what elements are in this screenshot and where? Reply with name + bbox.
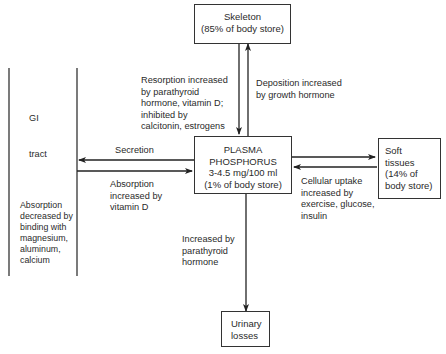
soft-tissues-title-1: Soft: [385, 145, 440, 157]
plasma-phosphorus-node: PLASMA PHOSPHORUS 3-4.5 mg/100 ml (1% of…: [194, 136, 292, 194]
soft-tissues-node: Soft tissues (14% of body store): [378, 138, 441, 199]
skeleton-percent: (85% of body store): [195, 23, 290, 35]
skeleton-node: Skeleton (85% of body store): [194, 4, 291, 44]
secretion-label: Secretion: [115, 145, 154, 157]
urinary-title-1: Urinary: [231, 318, 269, 330]
soft-tissues-title-2: tissues: [385, 157, 440, 169]
gi-tract-label: GI tract: [29, 88, 47, 172]
plasma-title-2: PHOSPHORUS: [195, 156, 291, 168]
gi-tract-label-1: GI: [29, 112, 47, 124]
urinary-increased-label: Increased by parathyroid hormone: [182, 234, 235, 269]
soft-tissues-percent-2: body store): [385, 180, 440, 192]
deposition-label: Deposition increased by growth hormone: [256, 78, 342, 101]
skeleton-title: Skeleton: [195, 11, 290, 23]
urinary-losses-node: Urinary losses: [221, 311, 270, 347]
plasma-title-1: PLASMA: [195, 144, 291, 156]
urinary-title-2: losses: [231, 330, 269, 342]
gi-tract-label-2: tract: [29, 148, 47, 160]
plasma-percent: (1% of body store): [195, 179, 291, 191]
resorption-label: Resorption increased by parathyroid horm…: [141, 75, 228, 133]
plasma-concentration: 3-4.5 mg/100 ml: [195, 167, 291, 179]
absorption-increased-label: Absorption increased by vitamin D: [110, 179, 162, 214]
soft-tissues-percent-1: (14% of: [385, 168, 440, 180]
cellular-uptake-label: Cellular uptake increased by exercise, g…: [301, 176, 375, 222]
absorption-decreased-label: Absorption decreased by binding with mag…: [20, 200, 73, 266]
